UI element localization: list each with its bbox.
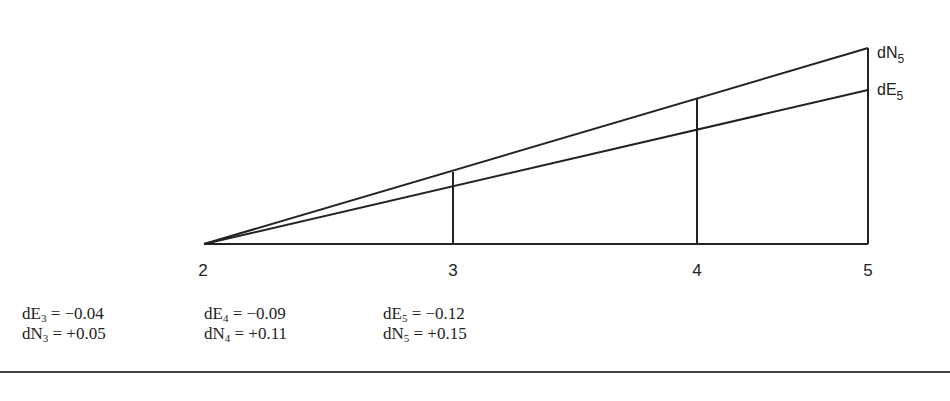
station-label-2: 2: [198, 261, 207, 280]
de5-equation: dE5 = −0.12: [383, 304, 467, 324]
error-proportion-diagram: 2 3 4 5 dN5 dE5: [0, 0, 950, 401]
de5-label: dE5: [877, 81, 904, 103]
dn-line: [204, 48, 868, 244]
station-label-4: 4: [692, 261, 701, 280]
dn3-equation: dN3 = +0.05: [22, 324, 106, 344]
dn4-equation: dN4 = +0.11: [204, 324, 287, 344]
dn5-equation: dN5 = +0.15: [383, 324, 467, 344]
de4-equation: dE4 = −0.09: [204, 304, 287, 324]
de-line: [204, 90, 868, 244]
dn5-label: dN5: [877, 44, 904, 66]
station-label-5: 5: [863, 261, 872, 280]
corrections-station-3: dE3 = −0.04 dN3 = +0.05: [22, 304, 106, 344]
corrections-station-5: dE5 = −0.12 dN5 = +0.15: [383, 304, 467, 344]
horizontal-rule: [0, 371, 950, 373]
de3-equation: dE3 = −0.04: [22, 304, 106, 324]
station-label-3: 3: [448, 261, 457, 280]
corrections-station-4: dE4 = −0.09 dN4 = +0.11: [204, 304, 287, 344]
